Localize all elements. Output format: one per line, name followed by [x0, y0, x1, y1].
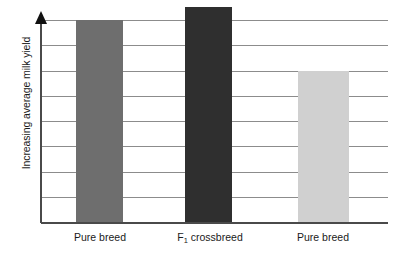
y-axis-line — [40, 22, 42, 223]
plot-area — [41, 0, 388, 262]
bar-2 — [185, 7, 232, 222]
x-axis-label-1: Pure breed — [60, 231, 140, 243]
y-axis-arrow-icon — [35, 11, 47, 24]
bar-3 — [298, 71, 349, 222]
bar-chart-figure: Increasing average milk yield Pure breed… — [0, 0, 403, 262]
y-axis-title: Increasing average milk yield — [20, 3, 32, 203]
x-axis-label-2: F1 crossbreed — [160, 231, 260, 243]
x-axis-baseline — [41, 222, 388, 224]
x-axis-label-3: Pure breed — [283, 231, 363, 243]
bar-1 — [76, 20, 123, 222]
